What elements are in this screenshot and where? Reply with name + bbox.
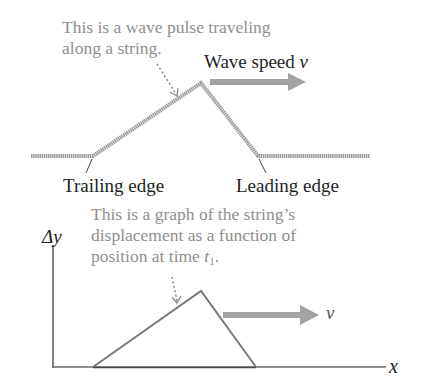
x-axis-label: x <box>389 356 398 376</box>
displacement-curve <box>93 291 256 368</box>
top-caption-line1: This is a wave pulse traveling <box>62 17 271 38</box>
bottom-caption-line2: displacement as a function of <box>91 225 296 246</box>
y-axis-label: Δy <box>42 227 62 246</box>
wave-speed-arrow-icon <box>210 73 306 91</box>
velocity-arrow-icon <box>223 305 319 325</box>
leading-edge-label: Leading edge <box>236 176 339 195</box>
wave-speed-variable: v <box>300 51 308 72</box>
velocity-label: v <box>326 303 334 322</box>
bottom-caption: This is a graph of the string’s displace… <box>91 204 296 272</box>
leading-edge-leader <box>259 159 266 173</box>
bottom-caption-line1: This is a graph of the string’s <box>91 204 296 225</box>
string-pulse <box>31 83 370 156</box>
trailing-edge-label: Trailing edge <box>63 176 164 195</box>
trailing-edge-leader <box>86 159 92 173</box>
wave-speed-label: Wave speed v <box>204 52 308 71</box>
bottom-caption-line3: position at time t1. <box>91 246 296 272</box>
caption-pointer-top-icon <box>157 64 178 96</box>
caption-pointer-bottom-icon <box>172 277 181 303</box>
wave-speed-text: Wave speed <box>204 51 300 72</box>
